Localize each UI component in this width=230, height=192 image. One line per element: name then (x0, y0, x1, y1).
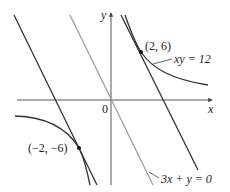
hyperbola-label: xy = 12 (173, 52, 211, 66)
reference-line-label-leader (149, 172, 159, 178)
point-2-6 (139, 50, 143, 54)
x-axis-label: x (207, 102, 214, 116)
point-2-6-label: (2, 6) (145, 39, 171, 53)
point-neg2-neg6-label: (−2, −6) (28, 141, 68, 155)
y-axis-label: y (100, 8, 107, 22)
hyperbola-label-leader (153, 59, 172, 64)
reference-line-label: 3x + y = 0 (160, 172, 212, 186)
origin-label: 0 (102, 102, 108, 116)
point-neg2-neg6 (77, 146, 81, 150)
hyperbola-tangent-diagram: y x 0 (2, 6) (−2, −6) xy = 12 3x + y = 0 (0, 0, 230, 192)
